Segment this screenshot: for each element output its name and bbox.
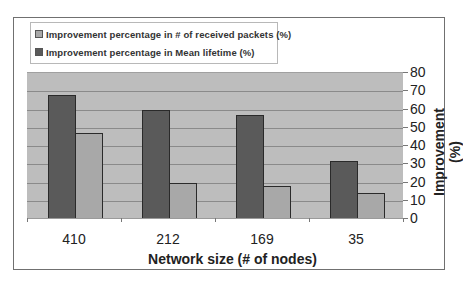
legend-label: Improvement percentage in Mean lifetime … (46, 47, 255, 58)
bar-212-mean-lifetime (142, 110, 170, 220)
y-tick-label: 10 (410, 193, 426, 207)
y-tick (403, 127, 408, 128)
plot-area (27, 72, 403, 219)
y-tick (403, 109, 408, 110)
bar-410-received-packets (75, 133, 103, 219)
x-tick (215, 218, 216, 222)
legend-swatch-light (35, 30, 43, 38)
y-tick-label: 60 (410, 102, 426, 116)
gridline (27, 128, 403, 129)
x-category-label: 212 (138, 231, 198, 247)
chart-legend: Improvement percentage in # of received … (30, 22, 278, 64)
bar-35-mean-lifetime (330, 161, 358, 219)
y-axis-title: Improvement (%) (431, 97, 463, 207)
legend-item-received-packets: Improvement percentage in # of received … (35, 29, 291, 40)
bar-410-mean-lifetime (48, 95, 76, 219)
bar-212-received-packets (169, 183, 197, 220)
y-tick (403, 72, 408, 73)
legend-label: Improvement percentage in # of received … (46, 29, 291, 40)
x-tick (27, 218, 28, 222)
y-tick-label: 40 (410, 138, 426, 152)
legend-swatch-dark (35, 48, 43, 56)
x-category-label: 35 (326, 231, 386, 247)
y-tick-label: 0 (410, 211, 418, 225)
y-tick (403, 200, 408, 201)
gridline (27, 110, 403, 111)
y-tick (403, 218, 408, 219)
y-tick-label: 80 (410, 65, 426, 79)
y-tick (403, 182, 408, 183)
x-category-label: 410 (44, 231, 104, 247)
y-tick-label: 30 (410, 156, 426, 170)
y-tick-label: 50 (410, 120, 426, 134)
y-tick (403, 163, 408, 164)
y-tick-label: 70 (410, 83, 426, 97)
y-tick-label: 20 (410, 175, 426, 189)
y-tick (403, 145, 408, 146)
x-tick (121, 218, 122, 222)
x-axis-title: Network size (# of nodes) (0, 251, 459, 267)
y-tick (403, 90, 408, 91)
bar-169-mean-lifetime (236, 115, 264, 219)
x-category-label: 169 (232, 231, 292, 247)
bar-169-received-packets (263, 186, 291, 219)
bar-35-received-packets (357, 193, 385, 219)
gridline (27, 91, 403, 92)
x-tick (309, 218, 310, 222)
legend-item-mean-lifetime: Improvement percentage in Mean lifetime … (35, 47, 255, 58)
